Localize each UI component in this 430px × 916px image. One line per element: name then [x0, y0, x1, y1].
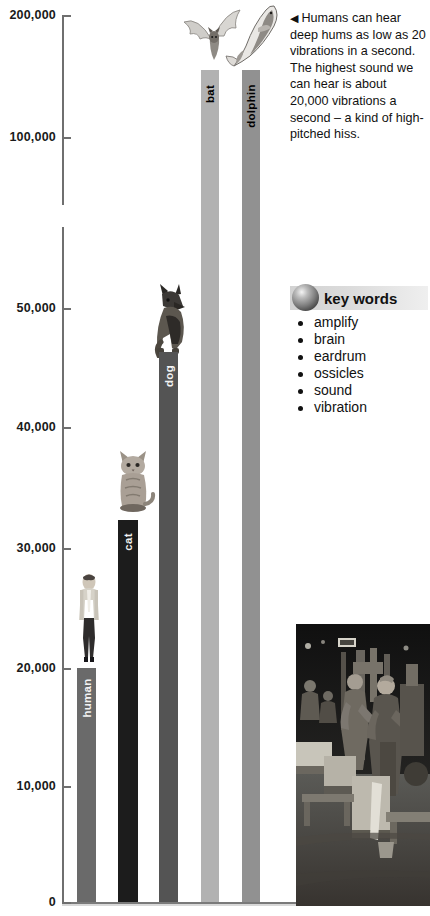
- list-item: sound: [290, 382, 428, 399]
- bar-cat-label-wrap: cat: [118, 520, 138, 576]
- list-item: amplify: [290, 314, 428, 331]
- factory-workshop-photo: [296, 624, 430, 906]
- y-tick-20000: [62, 668, 71, 670]
- bar-label-cat: cat: [122, 533, 134, 551]
- bar-label-dog: dog: [163, 365, 175, 387]
- key-words-header: key words: [290, 286, 428, 310]
- dolphin-figure: [224, 2, 286, 70]
- human-figure: [74, 572, 104, 664]
- y-tick-label-30000: 30,000: [0, 542, 56, 555]
- caption-arrow-icon: ◀: [290, 12, 298, 24]
- y-tick-40000: [62, 427, 71, 429]
- bar-human-label-wrap: human: [77, 668, 96, 724]
- y-tick-label-20000: 20,000: [0, 662, 56, 675]
- bar-cat[interactable]: cat: [118, 520, 138, 902]
- bar-dog-label-wrap: dog: [159, 352, 178, 408]
- y-tick-200000: [62, 15, 71, 17]
- bar-bat-label-wrap: bat: [201, 70, 219, 126]
- key-words-box: key words amplify brain eardrum ossicles…: [290, 286, 428, 416]
- y-axis-break: [58, 205, 68, 227]
- y-tick-50000: [62, 308, 71, 310]
- cat-figure: [112, 448, 156, 514]
- bar-human[interactable]: human: [77, 668, 96, 902]
- y-tick-label-50000: 50,000: [0, 302, 56, 315]
- y-axis-line: [62, 15, 64, 904]
- key-words-title: key words: [324, 291, 397, 306]
- y-tick-label-100000: 100,000: [0, 131, 56, 144]
- bar-dog[interactable]: dog: [159, 352, 178, 902]
- bar-label-dolphin: dolphin: [245, 84, 257, 128]
- caption-block: ◀ Humans can hear deep hums as low as 20…: [290, 10, 426, 143]
- y-tick-label-40000: 40,000: [0, 421, 56, 434]
- list-item: ossicles: [290, 365, 428, 382]
- y-tick-label-0: 0: [0, 896, 56, 909]
- y-tick-0: [62, 902, 71, 904]
- list-item: brain: [290, 331, 428, 348]
- key-words-list: amplify brain eardrum ossicles sound vib…: [290, 314, 428, 416]
- bar-dolphin-label-wrap: dolphin: [242, 70, 260, 126]
- dog-figure: [150, 282, 196, 358]
- list-item: vibration: [290, 399, 428, 416]
- hearing-range-chart-page: 200,000 100,000 50,000 40,000 30,000 20,…: [0, 0, 430, 916]
- list-item: eardrum: [290, 348, 428, 365]
- caption-text: Humans can hear deep hums as low as 20 v…: [290, 11, 426, 141]
- bar-dolphin[interactable]: dolphin: [242, 70, 260, 902]
- bar-label-bat: bat: [204, 85, 216, 103]
- y-tick-10000: [62, 786, 71, 788]
- y-tick-label-200000: 200,000: [0, 9, 56, 22]
- y-tick-100000: [62, 137, 71, 139]
- bar-label-human: human: [81, 678, 93, 717]
- sphere-icon: [292, 284, 319, 311]
- bar-bat[interactable]: bat: [201, 70, 219, 902]
- y-tick-30000: [62, 548, 71, 550]
- y-tick-label-10000: 10,000: [0, 780, 56, 793]
- factory-workshop-photo-art: [296, 624, 430, 906]
